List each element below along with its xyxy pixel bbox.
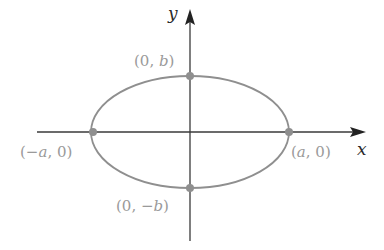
vertex-left-point — [89, 128, 97, 136]
x-axis-label: x — [357, 139, 367, 159]
ellipse-diagram: y x (0, b) (−a, 0) (a, 0) (0, −b) — [0, 0, 384, 250]
label-right: (a, 0) — [291, 143, 331, 161]
y-axis-label: y — [167, 3, 178, 23]
vertex-bottom-point — [186, 184, 194, 192]
label-bottom: (0, −b) — [116, 197, 169, 215]
label-left: (−a, 0) — [20, 143, 72, 161]
label-top: (0, b) — [134, 52, 174, 70]
vertex-right-point — [285, 128, 293, 136]
vertex-top-point — [186, 72, 194, 80]
